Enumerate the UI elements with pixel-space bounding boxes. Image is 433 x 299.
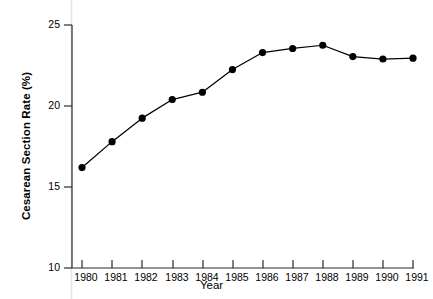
data-point-1985 [229, 66, 236, 73]
data-point-1986 [259, 49, 266, 56]
data-point-1987 [289, 45, 296, 52]
data-point-1988 [319, 42, 326, 49]
y-tick-label-25: 25 [30, 19, 60, 30]
data-point-1981 [108, 138, 115, 145]
data-point-1989 [349, 53, 356, 60]
data-point-1982 [139, 115, 146, 122]
x-tick-marks [82, 260, 413, 268]
data-point-1990 [379, 55, 386, 62]
data-point-1991 [409, 55, 416, 62]
y-tick-label-20: 20 [30, 100, 60, 111]
y-tick-label-10: 10 [30, 262, 60, 273]
data-series-line [82, 45, 413, 167]
axis-group [72, 25, 414, 268]
y-tick-label-15: 15 [30, 181, 60, 192]
data-point-1984 [199, 89, 206, 96]
data-point-1980 [78, 164, 85, 171]
data-point-1983 [169, 96, 176, 103]
x-tick-label-1991: 1991 [397, 272, 433, 283]
